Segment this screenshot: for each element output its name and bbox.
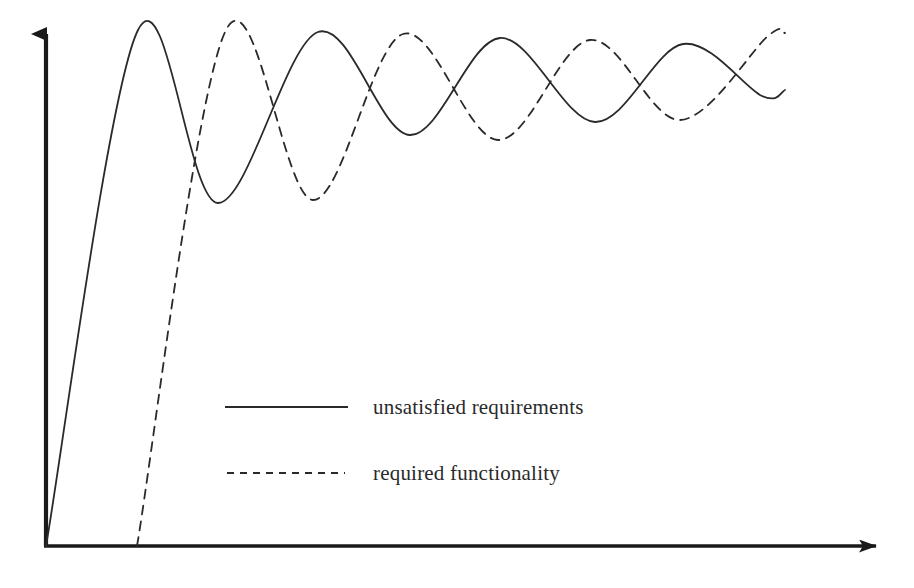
legend-label-required-functionality: required functionality: [373, 461, 560, 486]
plot-area: [0, 0, 914, 588]
legend-label-unsatisfied-requirements: unsatisfied requirements: [373, 395, 584, 420]
legend-swatches: [225, 407, 348, 473]
figure-canvas: unsatisfied requirements required functi…: [0, 0, 914, 588]
